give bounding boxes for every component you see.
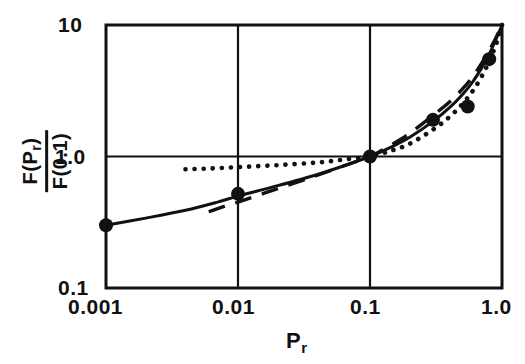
data-point-markers	[99, 52, 496, 232]
curves-group	[106, 25, 502, 225]
figure-container: F(Pr) F(0.1) 10 1.0 0.1 0.001 0.01 0.1 1…	[0, 0, 525, 364]
curve-dotted	[185, 25, 502, 169]
data-point	[99, 218, 113, 232]
plot-svg	[0, 0, 525, 364]
data-point	[426, 113, 440, 127]
data-point	[231, 187, 245, 201]
curve-dashed	[209, 25, 502, 212]
data-point	[482, 52, 496, 66]
gridlines	[106, 25, 502, 288]
data-point	[461, 100, 475, 114]
data-point	[363, 150, 377, 164]
